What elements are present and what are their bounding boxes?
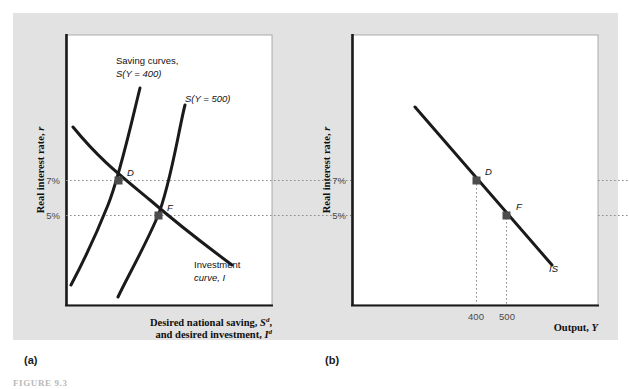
figure-caption-id: FIGURE 9.3	[13, 378, 68, 388]
panel-a-investment-label-line1: Investment	[194, 259, 241, 270]
panel-b: 7% 5% 400 500 D F IS Real interest rate,…	[321, 34, 600, 333]
panel-b-letter: (b)	[325, 354, 339, 366]
panel-a-x-axis-title-line1-tail: ,	[269, 317, 272, 328]
panel-a-x-axis-title-line2-main: and desired investment,	[156, 329, 265, 340]
panel-b-ytick-5: 5%	[332, 210, 346, 221]
panel-a-ytick-7: 7%	[46, 175, 60, 186]
panel-b-xtick-500: 500	[499, 311, 515, 322]
panel-a-saving-curves-label-line1: Saving curves,	[116, 55, 178, 66]
panel-a-investment-label-line2: curve, I	[194, 272, 226, 283]
panel-a-point-f-marker	[155, 212, 163, 220]
figure-canvas: 7% 5% D F Saving curves, S(Y = 400) S(Y …	[0, 0, 629, 389]
panel-b-xtick-400: 400	[468, 311, 484, 322]
svg-text:Real interest rate, r: Real interest rate, r	[321, 126, 332, 214]
panel-b-point-d-label: D	[485, 166, 492, 177]
panel-b-x-axis-title-var: Y	[592, 322, 600, 333]
panel-a-letter: (a)	[24, 354, 37, 366]
panel-a-saving-500-label: S(Y = 500)	[185, 93, 231, 104]
panel-a-point-d-label: D	[127, 167, 134, 178]
panel-b-y-axis-title-var: r	[321, 126, 332, 131]
panel-b-x-axis-title: Output, Y	[554, 322, 600, 333]
panel-a-point-d-marker	[115, 177, 123, 185]
panel-b-is-label: IS	[549, 263, 559, 274]
panel-b-y-axis-title: Real interest rate, r	[321, 126, 332, 214]
panel-a-saving-curves-label-line2: S(Y = 400)	[116, 68, 162, 79]
panel-b-point-d-marker	[473, 177, 481, 185]
panel-b-plot-area	[352, 35, 598, 305]
panel-a-y-axis-title: Real interest rate, r	[35, 126, 46, 214]
panel-a-x-axis-title-line2: and desired investment, Id	[156, 328, 273, 340]
panel-a-plot-area	[66, 35, 272, 305]
panel-a-x-axis-title-line1: Desired national saving, Sd,	[150, 316, 272, 328]
panel-a-y-axis-title-main: Real interest rate,	[35, 131, 46, 214]
panel-b-y-axis-title-main: Real interest rate,	[321, 131, 332, 214]
panel-b-point-f-marker	[503, 212, 511, 220]
panel-a-ytick-5: 5%	[46, 210, 60, 221]
panel-b-ytick-7: 7%	[332, 175, 346, 186]
panel-a-x-axis-title-line2-sup: d	[269, 328, 273, 336]
panel-a-x-axis-title-line1-main: Desired national saving,	[150, 317, 260, 328]
panel-a-y-axis-title-var: r	[35, 126, 46, 131]
figure-root: 7% 5% D F Saving curves, S(Y = 400) S(Y …	[0, 0, 629, 389]
svg-text:Real interest rate, r: Real interest rate, r	[35, 126, 46, 214]
panel-b-x-axis-title-main: Output,	[554, 322, 592, 333]
